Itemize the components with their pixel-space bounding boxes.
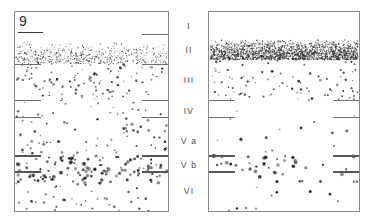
layer-label-column: I II III IV V a V b VI xyxy=(172,11,206,212)
dot-band-IV xyxy=(236,99,355,116)
layer-boundary-tick-right xyxy=(142,155,168,157)
layer-boundary-tick-left xyxy=(209,155,235,157)
layer-label-VI: VI xyxy=(172,187,206,196)
dot-band-Vb xyxy=(16,154,168,184)
dot-band-III xyxy=(212,59,358,100)
layer-boundary-tick-right xyxy=(333,171,359,173)
layer-boundary-tick-right xyxy=(142,117,168,118)
layer-boundary-tick-right xyxy=(333,155,359,157)
dot-band-II xyxy=(15,42,167,64)
panel-number-label: 9 xyxy=(19,14,27,28)
layer-boundary-tick-left xyxy=(209,171,235,173)
layer-boundary-tick-right xyxy=(142,100,168,101)
dot-band-III xyxy=(16,63,164,100)
layer-label-Va: V a xyxy=(172,137,206,146)
layer-boundary-tick-left xyxy=(15,155,41,157)
dot-band-Va xyxy=(19,117,167,154)
figure-cortical-layers: 9 I II III IV V a V b VI xyxy=(0,0,380,224)
layer-label-II: II xyxy=(172,46,206,55)
dot-band-II xyxy=(209,39,358,60)
dot-band-Va xyxy=(217,118,348,153)
layer-boundary-tick-left xyxy=(15,100,41,101)
dot-band-Vb xyxy=(212,154,358,183)
right-panel xyxy=(208,11,360,212)
left-panel: 9 xyxy=(14,11,169,212)
layer-label-Vb: V b xyxy=(172,161,206,170)
dot-band-VI xyxy=(228,187,339,211)
layer-label-III: III xyxy=(172,76,206,85)
layer-boundary-tick-left xyxy=(209,117,235,118)
layer-label-I: I xyxy=(172,22,206,31)
left-panel-dot-plot xyxy=(15,12,168,211)
layer-boundary-tick-right xyxy=(142,64,168,65)
layer-boundary-tick-right xyxy=(142,171,168,173)
layer-boundary-tick-left xyxy=(15,171,41,173)
dot-band-VI xyxy=(15,183,149,211)
layer-boundary-tick-right xyxy=(333,117,359,118)
layer-label-IV: IV xyxy=(172,107,206,116)
layer-boundary-tick-left xyxy=(209,100,235,101)
layer-boundary-tick-left xyxy=(15,117,41,118)
layer-boundary-tick-right xyxy=(142,34,168,35)
panel-number-underline xyxy=(18,32,43,33)
layer-boundary-tick-left xyxy=(15,64,41,65)
dot-band-IV xyxy=(16,100,162,118)
right-panel-dot-plot xyxy=(209,12,359,211)
layer-boundary-tick-right xyxy=(333,100,359,101)
